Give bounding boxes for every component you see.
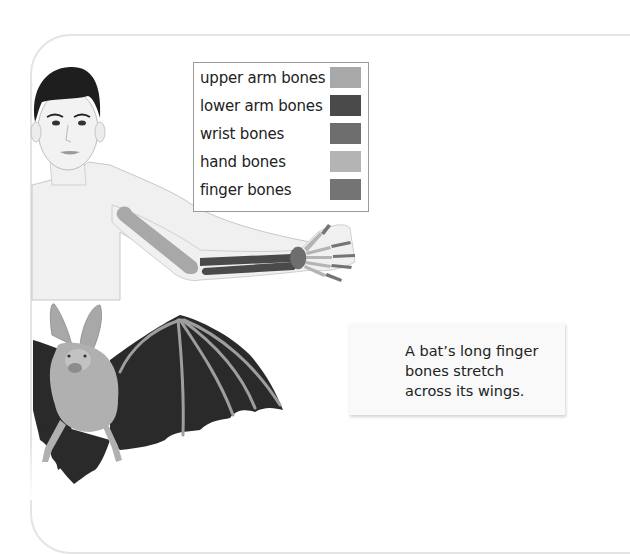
face: [38, 90, 98, 170]
caption-text: A bat’s long finger bones stretch across…: [405, 341, 555, 401]
legend-label: finger bones: [200, 179, 292, 201]
legend-swatch: [330, 67, 361, 88]
caption-box: A bat’s long finger bones stretch across…: [349, 323, 565, 415]
left-ear: [31, 122, 41, 142]
wrist-bones: [290, 247, 306, 269]
legend-label: wrist bones: [200, 123, 284, 145]
legend-label: hand bones: [200, 151, 286, 173]
legend-swatch: [330, 95, 361, 116]
bat-right-wing: [110, 315, 283, 450]
legend-label: lower arm bones: [200, 95, 323, 117]
legend-item-lower-arm-bones: lower arm bones: [200, 95, 364, 117]
legend-item-finger-bones: finger bones: [200, 179, 364, 201]
legend-swatch: [330, 123, 361, 144]
legend-swatch: [330, 151, 361, 172]
legend-swatch: [330, 179, 361, 200]
legend-item-hand-bones: hand bones: [200, 151, 364, 173]
legend-label: upper arm bones: [200, 67, 325, 89]
legend-item-upper-arm-bones: upper arm bones: [200, 67, 364, 89]
right-ear: [95, 122, 105, 142]
bat: [33, 304, 283, 484]
bone-legend: upper arm bones lower arm bones wrist bo…: [193, 62, 369, 212]
legend-item-wrist-bones: wrist bones: [200, 123, 364, 145]
